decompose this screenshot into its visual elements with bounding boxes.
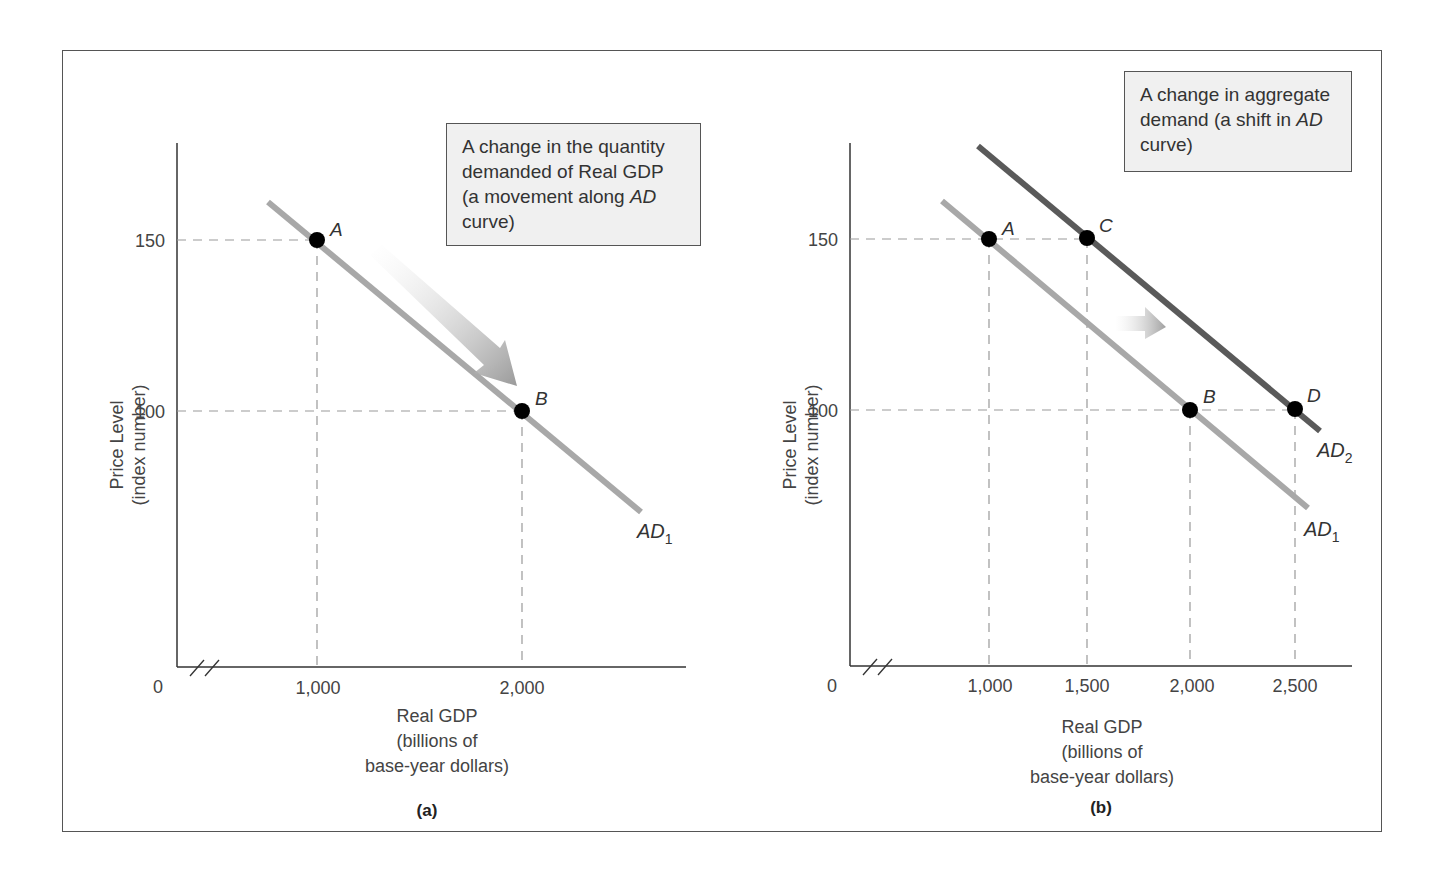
ad2-curve [978,146,1320,431]
axis-break-icon [190,660,219,676]
annotation-box-b: A change in aggregate demand (a shift in… [1124,71,1352,172]
point-d [1287,401,1303,417]
note-line: A change in the quantity [462,134,688,159]
shift-arrow-icon [1115,307,1166,339]
point-b [1182,402,1198,418]
point-b [514,403,530,419]
note-line: demand (a shift in AD [1140,107,1339,132]
y-tick-150: 150 [808,230,838,250]
svg-text:Real GDP: Real GDP [396,706,477,726]
point-a [309,232,325,248]
note-line: (a movement along AD [462,184,688,209]
y-axis-label: Price Level (index number) [780,384,822,505]
svg-text:Real GDP: Real GDP [1061,717,1142,737]
svg-text:Price Level: Price Level [780,400,800,489]
x-tick-1500: 1,500 [1064,676,1109,696]
panel-b: A C B D AD2 AD1 150 100 0 1,000 1,500 2,… [780,143,1353,817]
x-tick-2000: 2,000 [1169,676,1214,696]
svg-text:(billions of: (billions of [1061,742,1143,762]
ad2-label: AD2 [1316,439,1353,466]
origin-label: 0 [827,676,837,696]
point-b-label: B [1203,386,1216,407]
ad1-label: AD1 [1303,518,1340,545]
ad1-curve [942,201,1308,508]
svg-text:(index number): (index number) [802,384,822,505]
svg-text:Price Level: Price Level [107,400,127,489]
axis-break-icon [863,659,892,675]
x-tick-1000: 1,000 [967,676,1012,696]
note-line: A change in aggregate [1140,82,1339,107]
x-tick-2000: 2,000 [499,678,544,698]
origin-label: 0 [153,677,163,697]
annotation-box-a: A change in the quantity demanded of Rea… [446,123,701,246]
x-axis-label: Real GDP (billions of base-year dollars) [365,706,509,776]
x-tick-2500: 2,500 [1272,676,1317,696]
ad1-curve [268,202,641,512]
guide-lines [850,239,1295,666]
point-a [981,231,997,247]
y-tick-150: 150 [135,231,165,251]
movement-arrow-icon [370,245,517,386]
svg-text:base-year dollars): base-year dollars) [1030,767,1174,787]
point-a-label: A [1001,218,1015,239]
panel-b-label: (b) [1090,798,1112,817]
x-axis-label: Real GDP (billions of base-year dollars) [1030,717,1174,787]
y-axis-label: Price Level (index number) [107,384,149,505]
point-a-label: A [329,219,343,240]
ad1-label: AD1 [636,520,673,547]
svg-text:(index number): (index number) [129,384,149,505]
note-line: curve) [462,209,688,234]
note-line: curve) [1140,132,1339,157]
svg-text:base-year dollars): base-year dollars) [365,756,509,776]
point-d-label: D [1307,385,1321,406]
x-tick-1000: 1,000 [295,678,340,698]
point-c-label: C [1099,215,1113,236]
point-b-label: B [535,388,548,409]
panel-a-label: (a) [417,801,438,820]
guide-lines [177,240,522,667]
note-line: demanded of Real GDP [462,159,688,184]
point-c [1079,230,1095,246]
svg-text:(billions of: (billions of [396,731,478,751]
